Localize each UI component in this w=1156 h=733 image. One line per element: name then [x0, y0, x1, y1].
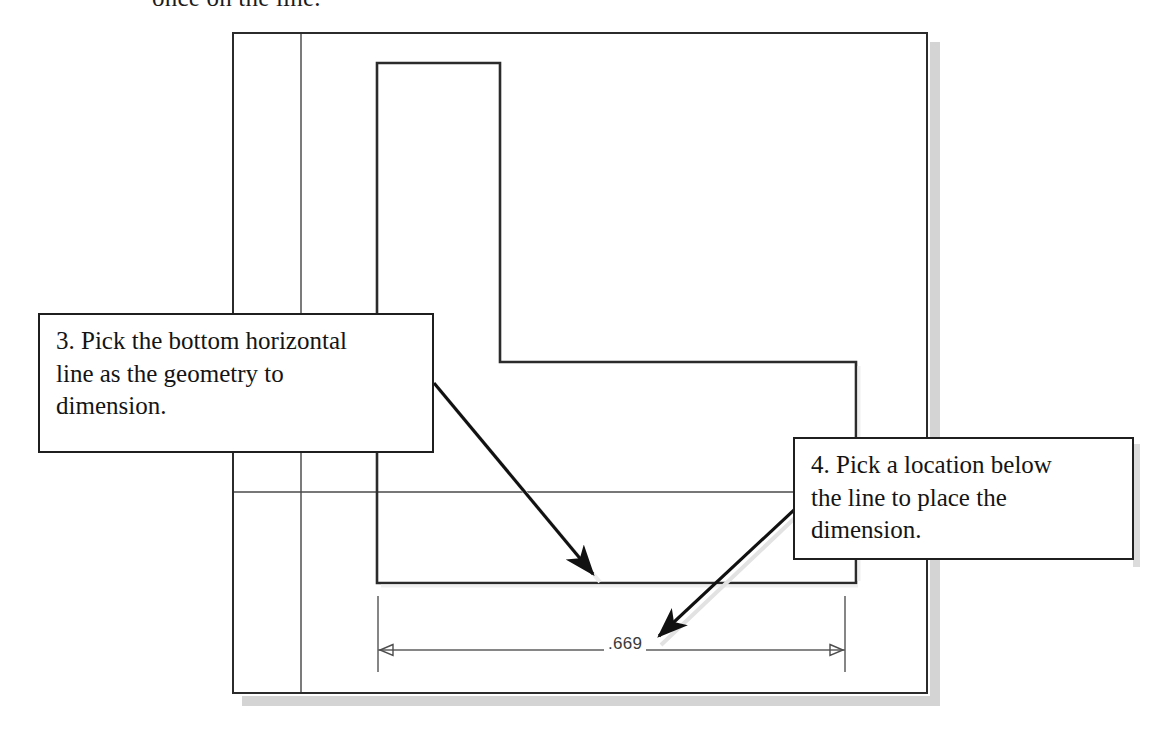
leader-arrow-step-4	[659, 509, 795, 636]
callout-step-4-line-3: dimension.	[811, 514, 1120, 547]
leader-arrow-step-4-shadow	[661, 514, 799, 645]
leader-arrow-step-3	[434, 383, 593, 574]
callout-step-4-shadow	[1133, 444, 1140, 567]
profile-highlight	[381, 366, 859, 586]
l-profile-outline	[377, 63, 856, 583]
callout-step-3-line-1: 3. Pick the bottom horizontal	[56, 325, 420, 358]
callout-step-3: 3. Pick the bottom horizontal line as th…	[38, 313, 434, 453]
callout-step-3-line-2: line as the geometry to	[56, 358, 420, 391]
dimension-value-text: .669	[604, 634, 646, 654]
figure-canvas: once on the line.	[0, 0, 1156, 733]
callout-step-4-line-1: 4. Pick a location below	[811, 449, 1120, 482]
callout-step-4-line-2: the line to place the	[811, 482, 1120, 515]
callout-step-3-line-3: dimension.	[56, 390, 420, 423]
callout-step-4: 4. Pick a location below the line to pla…	[793, 437, 1134, 560]
